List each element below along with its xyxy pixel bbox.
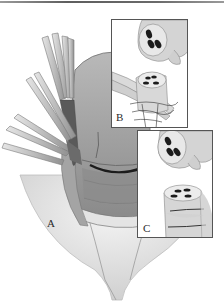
- panel-label-c: C: [143, 223, 150, 234]
- inset-panel-b: B: [111, 19, 188, 128]
- panel-b-illustration: [112, 20, 188, 128]
- panel-label-b: B: [116, 112, 123, 123]
- inset-panel-c: C: [137, 130, 213, 238]
- panel-label-a: A: [47, 218, 55, 229]
